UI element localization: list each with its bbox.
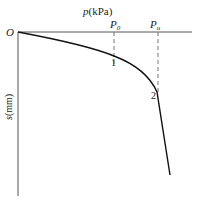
pu-label: Pu [149,18,161,32]
p0-label: P0 [109,18,121,32]
origin-label: O [6,26,14,38]
load-settlement-curve [18,32,170,175]
p-s-diagram: p(kPa) O P0 Pu 1 2 s(mm) [0,0,197,207]
x-axis-unit: (kPa) [89,5,113,18]
point-1-label: 1 [111,57,116,68]
y-axis-label: s(mm) [3,94,15,120]
x-axis-label: p(kPa) [82,5,113,18]
point-2-label: 2 [151,90,156,101]
